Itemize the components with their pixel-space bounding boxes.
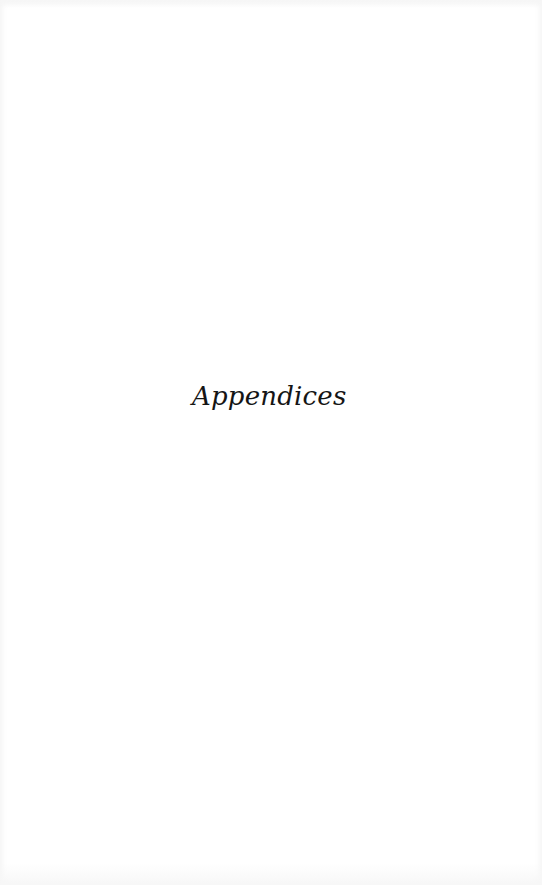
- page-bottom-edge: [0, 863, 542, 885]
- page-top-edge: [0, 0, 542, 8]
- section-title: Appendices: [192, 376, 346, 416]
- book-page: Appendices: [0, 0, 542, 885]
